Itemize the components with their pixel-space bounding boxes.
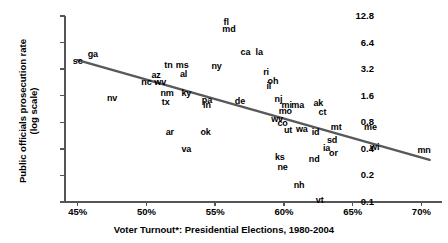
data-point-label: ut	[284, 125, 292, 135]
y-tick	[60, 15, 65, 17]
y-tick-label: 0.2	[328, 169, 374, 180]
data-point-label: mt	[331, 122, 342, 132]
y-tick	[60, 122, 65, 124]
data-point-label: in	[203, 100, 211, 110]
data-point-label: wi	[370, 142, 379, 152]
data-point-label: ne	[277, 162, 287, 172]
chart-container: Public officials prosecution rate (log s…	[0, 0, 448, 243]
x-tick-label: 50%	[124, 206, 168, 217]
data-point-label: ct	[319, 107, 327, 117]
x-tick-label: 70%	[399, 206, 443, 217]
trendline	[64, 16, 442, 202]
plot-area: 12.86.43.21.60.80.40.20.1 45%50%55%60%65…	[64, 16, 442, 202]
data-point-label: il	[266, 81, 271, 91]
y-tick-label: 3.2	[328, 63, 374, 74]
data-point-label: ky	[181, 88, 191, 98]
data-point-label: me	[364, 122, 377, 132]
data-point-label: ga	[88, 49, 98, 59]
y-axis-title: Public officials prosecution rate (log s…	[17, 11, 39, 211]
data-point-label: vt	[316, 195, 324, 205]
data-point-label: tn	[164, 60, 172, 70]
y-tick	[60, 201, 65, 203]
y-tick-label: 1.6	[328, 90, 374, 101]
data-point-label: ok	[200, 127, 210, 137]
data-point-label: ma	[291, 100, 304, 110]
data-point-label: nh	[294, 180, 305, 190]
y-tick	[60, 175, 65, 177]
x-axis-title: Voter Turnout*: Presidential Elections, …	[0, 224, 448, 235]
data-point-label: tx	[162, 97, 170, 107]
data-point-label: nc	[141, 77, 151, 87]
x-tick-label: 55%	[193, 206, 237, 217]
y-tick	[60, 148, 65, 150]
y-tick	[60, 68, 65, 70]
x-tick-label: 60%	[262, 206, 306, 217]
data-point-label: wa	[296, 124, 308, 134]
y-tick	[60, 95, 65, 97]
data-point-label: ny	[211, 61, 221, 71]
data-point-label: id	[312, 127, 320, 137]
data-point-label: va	[181, 144, 191, 154]
x-tick-label: 45%	[56, 206, 100, 217]
data-point-label: sc	[73, 56, 83, 66]
data-point-label: al	[180, 69, 187, 79]
data-point-label: ca	[241, 47, 251, 57]
y-tick-label: 12.8	[328, 10, 374, 21]
data-point-label: wv	[154, 77, 166, 87]
data-point-label: ar	[166, 127, 174, 137]
data-point-label: mn	[417, 145, 430, 155]
data-point-label: de	[235, 96, 245, 106]
data-point-label: nd	[309, 154, 320, 164]
data-point-label: la	[256, 47, 263, 57]
y-tick	[60, 42, 65, 44]
data-point-label: md	[222, 24, 235, 34]
data-point-label: or	[329, 148, 338, 158]
x-tick-label: 65%	[331, 206, 375, 217]
data-point-label: nv	[107, 93, 117, 103]
y-tick-label: 6.4	[328, 37, 374, 48]
